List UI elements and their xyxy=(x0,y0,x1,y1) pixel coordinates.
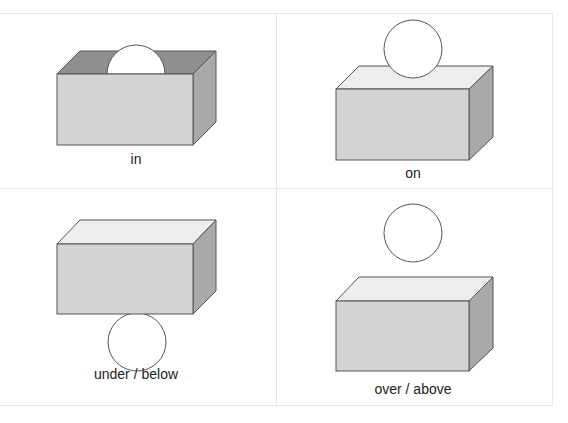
preposition-illustrations xyxy=(0,0,568,423)
ball xyxy=(107,45,165,74)
box-top xyxy=(336,277,493,301)
box-front xyxy=(57,244,193,314)
panel-over-figure xyxy=(336,204,493,371)
label-under: under / below xyxy=(36,366,236,382)
ball xyxy=(384,20,442,78)
box-front xyxy=(336,89,469,160)
label-in: in xyxy=(36,151,236,167)
panel-under-figure xyxy=(57,220,216,371)
label-on: on xyxy=(313,165,513,181)
box-front xyxy=(57,74,193,145)
panel-on-figure xyxy=(336,20,493,160)
label-over: over / above xyxy=(313,381,513,397)
box-front xyxy=(336,301,469,371)
ball xyxy=(384,204,442,262)
panel-in-figure xyxy=(57,45,216,145)
box-top xyxy=(57,220,216,244)
ball xyxy=(108,313,166,371)
